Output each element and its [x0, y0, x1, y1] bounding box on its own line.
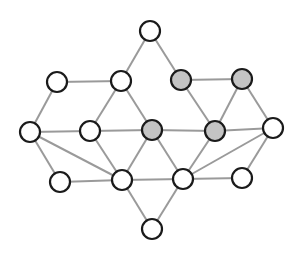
node-n11: [50, 172, 70, 192]
node-n1: [140, 21, 160, 41]
node-n13: [173, 169, 193, 189]
node-n12: [112, 170, 132, 190]
node-n15: [142, 219, 162, 239]
highlighted-node-n8: [142, 120, 162, 140]
node-n14: [232, 168, 252, 188]
node-n10: [263, 118, 283, 138]
node-n2: [47, 72, 67, 92]
graph-diagram: [0, 0, 302, 253]
highlighted-node-n4: [171, 70, 191, 90]
node-n3: [111, 71, 131, 91]
edge-n10-n13: [183, 128, 273, 179]
highlighted-node-n5: [232, 69, 252, 89]
highlighted-node-n9: [205, 121, 225, 141]
node-n6: [20, 122, 40, 142]
node-n7: [80, 121, 100, 141]
